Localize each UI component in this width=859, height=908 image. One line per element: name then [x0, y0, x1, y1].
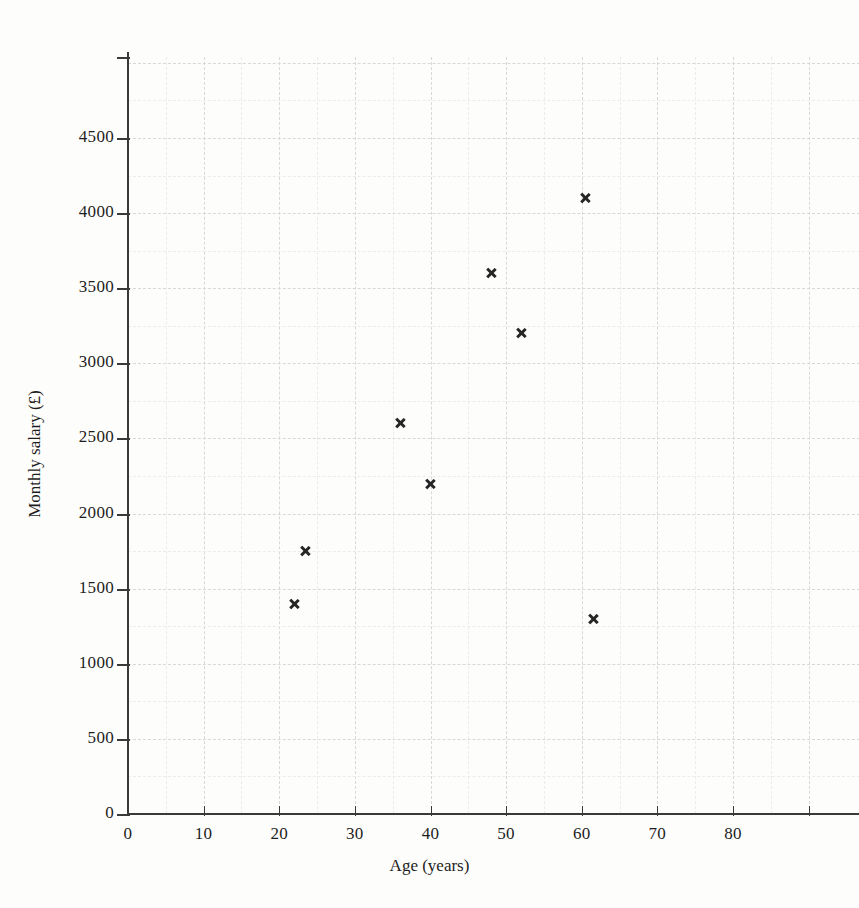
x-axis-tick — [733, 806, 734, 816]
x-axis-title: Age (years) — [0, 856, 859, 876]
data-point-marker — [484, 266, 498, 280]
gridline-horizontal — [128, 664, 859, 665]
y-axis-tick-label: 1500 — [44, 578, 114, 598]
x-axis-tick-label: 40 — [401, 824, 461, 844]
x-axis-tick — [355, 806, 356, 816]
gridline-horizontal — [128, 326, 859, 327]
y-axis-tick — [117, 664, 130, 666]
gridline-horizontal — [128, 63, 859, 64]
gridline-horizontal — [128, 626, 859, 627]
y-axis-tick — [117, 57, 130, 59]
x-axis-tick-label: 20 — [249, 824, 309, 844]
y-axis-tick — [117, 589, 130, 591]
x-axis-tick — [128, 806, 129, 816]
y-axis-tick — [117, 363, 130, 365]
data-point-marker — [579, 191, 593, 205]
y-axis-tick — [117, 213, 130, 215]
gridline-horizontal — [128, 589, 859, 590]
data-point-marker — [424, 477, 438, 491]
y-axis-line — [127, 52, 129, 816]
x-axis-tick — [204, 806, 205, 816]
plot-area — [128, 57, 859, 814]
x-axis-tick — [582, 806, 583, 816]
y-axis-tick-label: 4000 — [44, 202, 114, 222]
gridline-horizontal — [128, 776, 859, 777]
x-axis-tick — [431, 806, 432, 816]
x-axis-tick — [657, 806, 658, 816]
gridline-horizontal — [128, 701, 859, 702]
y-axis-tick-label: 2000 — [44, 503, 114, 523]
gridline-horizontal — [128, 438, 859, 439]
y-axis-tick — [117, 288, 130, 290]
y-axis-tick — [117, 438, 130, 440]
gridline-horizontal — [128, 138, 859, 139]
x-axis-tick — [506, 806, 507, 816]
y-axis-tick-label: 500 — [44, 728, 114, 748]
gridline-horizontal — [128, 213, 859, 214]
x-axis-tick-label: 30 — [325, 824, 385, 844]
gridline-horizontal — [128, 401, 859, 402]
x-axis-tick-label: 50 — [476, 824, 536, 844]
x-axis-tick-label: 10 — [174, 824, 234, 844]
y-axis-tick — [117, 514, 130, 516]
scatter-plot-figure: 0500100015002000250030003500400045000102… — [0, 0, 859, 908]
x-axis-tick — [809, 806, 810, 816]
gridline-horizontal — [128, 100, 859, 101]
gridline-horizontal — [128, 476, 859, 477]
gridline-horizontal — [128, 551, 859, 552]
y-axis-tick-label: 4500 — [44, 127, 114, 147]
y-axis-tick-label: 2500 — [44, 427, 114, 447]
y-axis-title: Monthly salary (£) — [25, 390, 45, 517]
gridline-horizontal — [128, 251, 859, 252]
x-axis-tick-label: 60 — [552, 824, 612, 844]
x-axis-line — [127, 813, 859, 815]
data-point-marker — [287, 597, 301, 611]
gridline-horizontal — [128, 288, 859, 289]
y-axis-title-wrapper: Monthly salary (£) — [18, 0, 52, 908]
x-axis-tick-label: 70 — [627, 824, 687, 844]
gridline-horizontal — [128, 363, 859, 364]
x-axis-tick-label: 0 — [98, 824, 158, 844]
gridline-horizontal — [128, 514, 859, 515]
y-axis-tick-label: 0 — [44, 803, 114, 823]
y-axis-tick — [117, 138, 130, 140]
x-axis-tick — [279, 806, 280, 816]
data-point-marker — [299, 544, 313, 558]
gridline-horizontal — [128, 739, 859, 740]
x-axis-tick-label: 80 — [703, 824, 763, 844]
y-axis-tick-label: 1000 — [44, 653, 114, 673]
data-point-marker — [586, 612, 600, 626]
y-axis-tick-label: 3000 — [44, 352, 114, 372]
data-point-marker — [514, 326, 528, 340]
gridline-horizontal — [128, 176, 859, 177]
data-point-marker — [393, 416, 407, 430]
y-axis-tick-label: 3500 — [44, 277, 114, 297]
y-axis-tick — [117, 739, 130, 741]
